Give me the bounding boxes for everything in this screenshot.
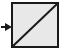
figure-root [0, 0, 64, 54]
diagram-canvas [0, 0, 64, 54]
